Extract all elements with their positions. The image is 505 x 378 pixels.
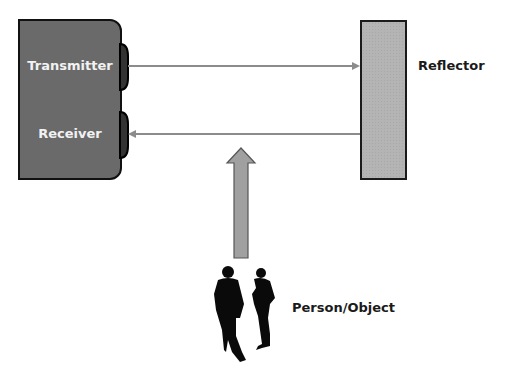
- interrupt-up-arrow: [227, 148, 255, 258]
- reflector-label: Reflector: [418, 58, 485, 73]
- transmitter-label: Transmitter: [18, 58, 122, 73]
- receiver-label: Receiver: [18, 126, 122, 141]
- person-silhouette-icon: [214, 266, 246, 362]
- reflector: [360, 20, 407, 180]
- diagram-graphics: [0, 0, 505, 378]
- person-silhouette-icon: [252, 268, 275, 350]
- transmitted-beam-arrow: [128, 62, 360, 70]
- reflected-beam-arrow: [128, 130, 360, 138]
- person-object-label: Person/Object: [292, 300, 395, 315]
